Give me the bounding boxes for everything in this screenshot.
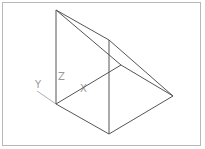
edge-c-e	[109, 40, 173, 96]
wireframe-drawing[interactable]: Y Z X	[0, 0, 205, 149]
ucs-axes-icon: Y Z X	[34, 71, 87, 104]
edge-b-f	[56, 10, 121, 65]
z-axis-label: Z	[58, 71, 65, 82]
edge-b-c	[56, 10, 109, 40]
edge-d-e	[109, 96, 173, 134]
y-axis-label: Y	[34, 79, 42, 90]
edge-f-e	[121, 65, 173, 96]
edge-a-d	[56, 104, 109, 134]
y-axis-line	[37, 91, 56, 104]
edge-a-f	[56, 65, 121, 104]
wedge-model[interactable]	[56, 10, 173, 134]
